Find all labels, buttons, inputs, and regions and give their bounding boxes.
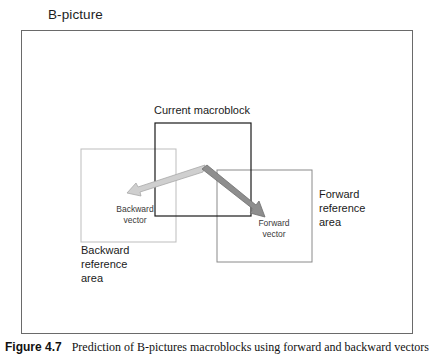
backward-vector-arrow-icon [127, 165, 205, 196]
figure-number: Figure 4.7 [5, 340, 62, 354]
current-macroblock-label: Current macroblock [154, 104, 250, 117]
backward-vector-label: Backward vector [107, 204, 163, 226]
caption-text: Prediction of B-pictures macroblocks usi… [72, 340, 429, 354]
forward-reference-area-label: Forward reference area [319, 188, 365, 229]
forward-vector-arrow-icon [202, 165, 265, 217]
figure-caption: Figure 4.7Prediction of B-pictures macro… [5, 340, 429, 355]
backward-reference-area-label: Backward reference area [81, 244, 129, 285]
backward-reference-area-box [81, 149, 176, 242]
forward-vector-label: Forward vector [247, 218, 301, 240]
